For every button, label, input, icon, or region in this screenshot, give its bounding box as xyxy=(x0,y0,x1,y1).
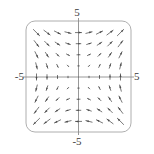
vector-arrow xyxy=(108,97,111,102)
arrow-head xyxy=(79,32,82,34)
vector-arrows xyxy=(33,30,123,125)
vector-arrow xyxy=(57,64,59,67)
vector-arrow xyxy=(118,107,123,113)
arrow-head xyxy=(89,43,92,45)
vector-arrow xyxy=(108,52,111,57)
vector-arrow xyxy=(54,31,60,34)
vector-arrow xyxy=(87,43,92,45)
arrow-head xyxy=(36,55,38,58)
vector-arrow xyxy=(66,98,69,100)
vector-arrow xyxy=(96,31,102,34)
vector-arrow xyxy=(67,65,69,67)
arrow-head xyxy=(35,99,37,102)
arrow-head xyxy=(89,32,92,34)
axis-label-bottom: -5 xyxy=(0,136,154,147)
vector-arrow xyxy=(33,30,39,36)
vector-arrow xyxy=(119,96,122,102)
arrow-head xyxy=(86,120,89,122)
axis-label-top: 5 xyxy=(0,7,154,18)
vector-arrow xyxy=(109,64,111,69)
vector-arrow xyxy=(89,76,90,78)
axis-label-right: 5 xyxy=(134,71,152,82)
vector-arrow xyxy=(88,65,90,67)
arrow-head xyxy=(96,120,99,122)
arrow-head xyxy=(66,109,69,111)
vector-arrow xyxy=(56,53,59,56)
vector-arrow xyxy=(57,75,58,78)
vector-arrow xyxy=(35,96,38,102)
vector-arrow xyxy=(54,120,60,123)
vector-arrow xyxy=(65,120,71,122)
vector-arrow xyxy=(119,52,122,58)
vector-arrow xyxy=(117,118,123,124)
arrow-head xyxy=(36,66,38,69)
vector-arrow xyxy=(56,98,59,101)
vector-arrow xyxy=(78,66,80,67)
arrow-head xyxy=(54,121,57,123)
vector-arrow xyxy=(35,85,37,91)
vector-arrow xyxy=(46,86,48,91)
vector-arrow xyxy=(77,99,80,100)
vector-arrow xyxy=(44,30,50,35)
vector-arrow xyxy=(45,97,48,102)
vector-arrow xyxy=(67,87,69,89)
vector-arrow xyxy=(35,52,38,58)
vector-arrow xyxy=(108,108,113,113)
arrow-head xyxy=(120,74,122,77)
vector-arrow-null xyxy=(78,77,79,78)
arrow-head xyxy=(119,85,121,88)
vector-arrow xyxy=(87,98,90,100)
vector-arrow xyxy=(120,63,122,69)
arrow-head xyxy=(109,86,111,89)
vector-arrow xyxy=(96,120,102,123)
vector-arrow xyxy=(99,64,101,67)
vector-arrow xyxy=(118,41,123,47)
vector-arrow xyxy=(98,53,101,56)
vector-arrow xyxy=(86,120,92,122)
vector-arrow xyxy=(36,63,38,69)
vector-arrow xyxy=(86,32,92,34)
vector-arrow xyxy=(119,85,121,91)
arrow-head xyxy=(87,110,90,112)
vector-arrow xyxy=(98,98,101,101)
vector-arrow xyxy=(109,86,111,91)
vector-arrow xyxy=(66,109,71,111)
vector-arrow xyxy=(99,87,101,90)
vector-arrow xyxy=(44,119,50,124)
vector-arrow xyxy=(45,41,50,46)
vector-arrow xyxy=(108,41,113,46)
vector-arrow xyxy=(99,75,100,78)
arrow-head xyxy=(46,88,48,91)
vector-arrow xyxy=(46,64,48,69)
vector-arrow xyxy=(46,75,48,80)
vector-arrow xyxy=(34,107,39,113)
vector-arrow xyxy=(78,88,80,89)
vector-arrow xyxy=(77,54,80,55)
arrow-head xyxy=(75,120,78,122)
vector-arrow xyxy=(88,87,90,89)
vector-arrow xyxy=(97,109,102,112)
arrow-head xyxy=(68,43,71,45)
arrow-head xyxy=(76,110,79,112)
vector-arrow xyxy=(107,119,113,124)
vector-arrow xyxy=(68,76,69,78)
arrow-head xyxy=(120,63,122,66)
vector-arrow xyxy=(55,109,60,112)
arrow-head xyxy=(119,96,121,99)
vector-arrow xyxy=(66,54,69,56)
axis-label-left: -5 xyxy=(2,71,24,82)
vector-arrow xyxy=(45,108,50,113)
vector-arrow xyxy=(107,30,113,35)
vector-arrow xyxy=(45,52,48,57)
vector-arrow xyxy=(117,30,123,36)
vector-arrow xyxy=(57,87,59,90)
arrow-head xyxy=(99,31,102,33)
vector-arrow xyxy=(55,42,60,45)
vector-arrow xyxy=(87,54,90,56)
arrow-head xyxy=(46,65,48,68)
arrow-head xyxy=(78,43,81,45)
arrow-head xyxy=(57,32,60,34)
vector-arrow xyxy=(109,75,111,80)
arrow-head xyxy=(35,88,37,91)
arrow-head xyxy=(109,75,111,78)
